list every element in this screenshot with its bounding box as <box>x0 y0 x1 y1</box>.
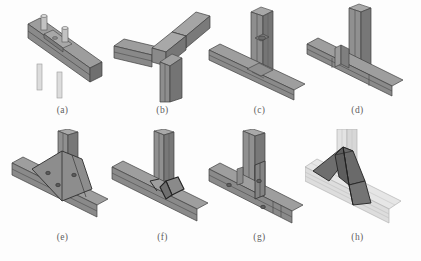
isometric-beam-with-bolts-icon <box>10 2 115 107</box>
panel-h: (h) <box>305 129 410 256</box>
panel-b: (b) <box>110 2 215 129</box>
panel-c: (c) <box>207 2 312 129</box>
panel-caption-d: (d) <box>305 105 410 115</box>
panel-f: (f) <box>110 129 215 256</box>
panel-a: (a) <box>10 2 115 129</box>
panel-e: (e) <box>10 129 115 256</box>
figure-container: (a) (b) <box>0 0 421 261</box>
isometric-tee-joint-transparent-gusset-icon <box>305 129 410 234</box>
panel-caption-g: (g) <box>207 232 312 242</box>
panel-caption-h: (h) <box>305 232 410 242</box>
isometric-tee-joint-small-gusset-icon <box>110 129 215 234</box>
panel-caption-f: (f) <box>110 232 215 242</box>
isometric-tee-joint-plain-icon <box>110 2 215 107</box>
panel-caption-a: (a) <box>10 105 115 115</box>
panel-caption-c: (c) <box>207 105 312 115</box>
isometric-tee-joint-haunch-plate-icon <box>10 129 115 234</box>
panel-caption-e: (e) <box>10 232 115 242</box>
panel-d: (d) <box>305 2 410 129</box>
isometric-tee-joint-single-plate-icon <box>207 2 312 107</box>
isometric-tee-joint-stiffener-icon <box>305 2 410 107</box>
isometric-tee-joint-bolted-plate-icon <box>207 129 312 234</box>
panel-g: (g) <box>207 129 312 256</box>
panel-caption-b: (b) <box>110 105 215 115</box>
